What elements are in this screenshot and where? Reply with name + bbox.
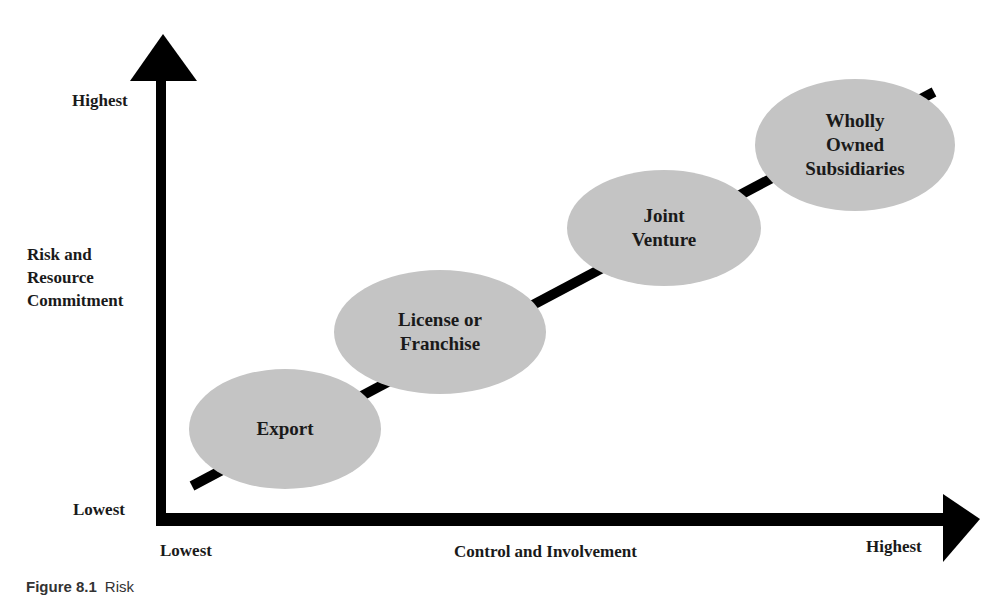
y-axis-line — [156, 76, 166, 526]
node-license-franchise: License or Franchise — [334, 270, 546, 394]
node-wholly-owned-subsidiaries: Wholly Owned Subsidiaries — [755, 79, 955, 211]
y-axis-high-label: Highest — [72, 90, 128, 112]
y-axis-low-label: Lowest — [73, 499, 125, 521]
figure-caption: Figure 8.1Risk — [26, 578, 134, 596]
node-joint-venture: Joint Venture — [567, 170, 761, 286]
x-axis-low-label: Lowest — [160, 540, 212, 562]
y-axis-arrowhead-icon — [130, 34, 197, 81]
figure-number: Figure 8.1 — [26, 578, 97, 595]
x-axis-high-label: Highest — [866, 536, 922, 558]
y-axis-title: Risk and Resource Commitment — [27, 243, 123, 312]
x-axis-line — [156, 513, 946, 526]
x-axis-title: Control and Involvement — [454, 541, 637, 563]
figure-caption-text: Risk — [105, 578, 134, 595]
x-axis-arrowhead-icon — [943, 494, 980, 562]
